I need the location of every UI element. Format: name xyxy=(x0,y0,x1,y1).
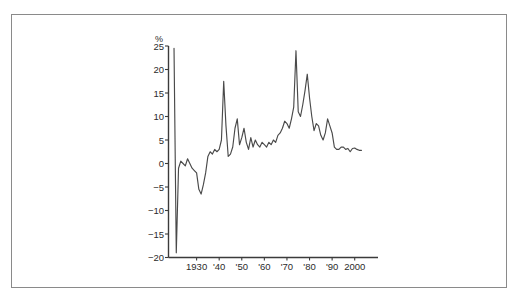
y-tick-label: −10 xyxy=(148,205,164,216)
x-tick-label: 1930 xyxy=(186,261,207,272)
x-axis-tick-labels: 1930'40'50'60'70'80'902000 xyxy=(186,261,365,272)
x-tick-label: '40 xyxy=(213,261,225,272)
y-axis-tick-labels: −20−15−10−50510152025 xyxy=(148,41,164,264)
data-series-line xyxy=(174,48,361,252)
x-tick-label: '50 xyxy=(236,261,248,272)
y-axis-unit-label: % xyxy=(155,34,163,44)
y-tick-label: 0 xyxy=(159,158,164,169)
figure-container: −20−15−10−50510152025 1930'40'50'60'70'8… xyxy=(0,0,520,304)
x-tick-label: '90 xyxy=(326,261,338,272)
line-chart: −20−15−10−50510152025 1930'40'50'60'70'8… xyxy=(0,0,520,304)
y-tick-label: 20 xyxy=(153,64,164,75)
x-tick-label: '70 xyxy=(281,261,293,272)
y-tick-label: −15 xyxy=(148,229,164,240)
x-tick-label: 2000 xyxy=(344,261,365,272)
x-tick-label: '80 xyxy=(303,261,315,272)
y-tick-label: 15 xyxy=(153,88,164,99)
y-tick-label: −5 xyxy=(153,182,164,193)
y-tick-label: 5 xyxy=(159,135,164,146)
y-tick-label: −20 xyxy=(148,252,164,263)
y-tick-label: 10 xyxy=(153,111,164,122)
x-tick-label: '60 xyxy=(258,261,270,272)
